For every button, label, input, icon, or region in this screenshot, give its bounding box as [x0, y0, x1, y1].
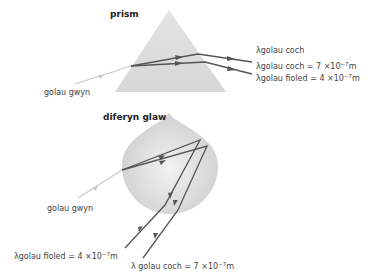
prism-shape — [115, 10, 226, 92]
raindrop-title: diferyn glaw — [103, 112, 166, 122]
prism-input-label: golau gwyn — [44, 88, 90, 98]
unit: m — [110, 252, 118, 261]
dispersion-diagram — [0, 0, 372, 279]
lambda-symbol: λ — [131, 262, 136, 271]
exponent: −7 — [218, 261, 226, 267]
exponent: −7 — [344, 73, 352, 79]
prism-output-label-3: λgolau fioled = 4 ×10−7m — [256, 71, 360, 84]
raindrop-output-label-violet: λgolau fioled = 4 ×10−7m — [14, 249, 118, 262]
exponent: −7 — [341, 61, 349, 67]
label-text: golau fioled = 4 ×10 — [19, 252, 102, 261]
prism-title: prism — [110, 9, 139, 19]
unit: m — [226, 262, 234, 271]
unit: m — [352, 74, 360, 83]
label-text: golau coch — [261, 46, 304, 55]
raindrop-output-label-red: λ golau coch = 7 ×10−7m — [131, 259, 234, 272]
prism-output-label-1: λgolau coch — [256, 46, 304, 56]
raindrop-white-ray — [78, 170, 122, 198]
label-text: golau coch = 7 ×10 — [261, 62, 341, 71]
label-text: golau coch = 7 ×10 — [138, 262, 218, 271]
raindrop-input-label: golau gwyn — [47, 204, 93, 214]
exponent: −7 — [102, 251, 110, 257]
unit: m — [349, 62, 357, 71]
label-text: golau fioled = 4 ×10 — [261, 74, 344, 83]
